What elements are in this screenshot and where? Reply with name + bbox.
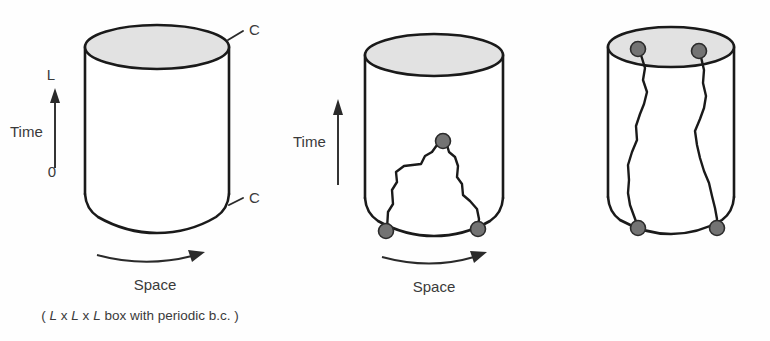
cylinder2-space-label: Space bbox=[413, 278, 456, 295]
cylinder1-bottom-c-tick bbox=[229, 198, 243, 205]
cylinder3-bottom-left-dot bbox=[631, 221, 646, 236]
cylinder1-time-label: Time bbox=[10, 123, 43, 140]
caption-close-paren: ) bbox=[234, 308, 239, 323]
cylinder3-top-left-dot bbox=[631, 42, 646, 57]
cylinder2-apex-dot bbox=[436, 134, 451, 149]
cylinder1-top-face bbox=[85, 25, 229, 69]
cylinder3-top-right-dot bbox=[692, 44, 707, 59]
cylinder2-space-arrow-head bbox=[470, 251, 487, 263]
cylinder2-time-arrow-head bbox=[333, 99, 343, 115]
caption-x1: x bbox=[61, 308, 68, 323]
cylinder1-time-bottom-label: 0 bbox=[48, 163, 56, 180]
panel-single-loop: Time Space bbox=[293, 34, 503, 295]
panel-empty-cylinder: C C L 0 Time Space ( L x L x L bbox=[10, 21, 260, 323]
figure-caption: ( L x L x L box with periodic b.c. ) bbox=[41, 308, 238, 323]
cylinder1-space-axis-curve bbox=[97, 255, 192, 262]
caption-open-paren: ( bbox=[41, 308, 46, 323]
cylinder3-top-face bbox=[608, 27, 734, 67]
cylinder1-top-c-label: C bbox=[249, 21, 260, 38]
caption-dim-l2: L bbox=[71, 308, 79, 323]
cylinder1-body-fill bbox=[85, 47, 229, 233]
panel-two-winding-lines bbox=[608, 27, 734, 236]
caption-x2: x bbox=[83, 308, 90, 323]
cylinder2-space-axis-curve bbox=[382, 257, 474, 264]
cylinder1-space-label: Space bbox=[134, 276, 177, 293]
cylinder1-bottom-c-label: C bbox=[249, 189, 260, 206]
cylinder1-space-arrow-head bbox=[188, 250, 205, 262]
caption-dim-l3: L bbox=[93, 308, 101, 323]
cylinder1-time-arrow-head bbox=[50, 88, 60, 103]
caption-rest: box with periodic b.c. bbox=[104, 308, 234, 323]
cylinder3-bottom-right-dot bbox=[710, 221, 725, 236]
spacetime-cylinder-figure: C C L 0 Time Space ( L x L x L bbox=[0, 0, 770, 341]
figure-canvas: C C L 0 Time Space ( L x L x L bbox=[0, 0, 770, 341]
cylinder1-top-c-tick bbox=[228, 31, 243, 40]
cylinder2-top-face bbox=[365, 34, 503, 76]
cylinder2-right-base-dot bbox=[471, 222, 486, 237]
cylinder1-time-top-label: L bbox=[47, 66, 55, 83]
cylinder2-left-base-dot bbox=[379, 224, 394, 239]
cylinder2-time-label: Time bbox=[293, 133, 326, 150]
cylinder2-body-fill bbox=[365, 55, 503, 236]
caption-dim-l1: L bbox=[50, 308, 58, 323]
